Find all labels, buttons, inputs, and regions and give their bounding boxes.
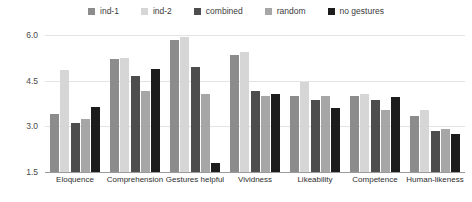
bar-group — [285, 35, 345, 172]
bar — [60, 70, 69, 172]
bar-group — [45, 35, 105, 172]
legend-swatch-icon — [265, 8, 272, 15]
bar — [391, 97, 400, 172]
bar — [441, 129, 450, 172]
legend-item: random — [265, 7, 306, 16]
x-axis-labels: EloquenceComprehensionGestures helpfulVi… — [45, 176, 465, 190]
y-axis-tick-label: 6.0 — [0, 31, 38, 40]
bar — [211, 163, 220, 172]
x-axis-label: Likeability — [285, 176, 345, 190]
bar — [261, 96, 270, 172]
bar — [290, 96, 299, 172]
bar-group — [165, 35, 225, 172]
bar — [131, 76, 140, 172]
y-axis-tick-label: 1.5 — [0, 168, 38, 177]
bar-chart: ind-1ind-2combinedrandomno gestures 1.53… — [0, 0, 472, 202]
bar — [230, 55, 239, 172]
bar-group — [345, 35, 405, 172]
x-axis-line — [45, 172, 465, 173]
bar — [410, 116, 419, 172]
legend-item: no gestures — [328, 7, 384, 16]
bar — [201, 94, 210, 172]
legend-swatch-icon — [194, 8, 201, 15]
legend-item: ind-1 — [88, 7, 119, 16]
bar — [331, 108, 340, 172]
bar — [300, 82, 309, 172]
legend-item: ind-2 — [141, 7, 172, 16]
bar — [180, 37, 189, 172]
bar-group — [405, 35, 465, 172]
bar-group — [105, 35, 165, 172]
bar — [420, 110, 429, 172]
bar — [91, 107, 100, 172]
bar-groups — [45, 35, 465, 172]
legend-label: ind-1 — [100, 7, 119, 16]
bar — [50, 114, 59, 172]
legend-label: ind-2 — [153, 7, 172, 16]
bar — [71, 123, 80, 172]
bar — [251, 91, 260, 172]
legend-swatch-icon — [88, 8, 95, 15]
bar — [170, 40, 179, 172]
legend-item: combined — [194, 7, 243, 16]
legend-label: no gestures — [340, 7, 384, 16]
bar — [120, 58, 129, 172]
bar-group — [225, 35, 285, 172]
legend-swatch-icon — [141, 8, 148, 15]
chart-legend: ind-1ind-2combinedrandomno gestures — [0, 4, 472, 18]
x-axis-label: Vividness — [225, 176, 285, 190]
y-axis-tick-label: 3.0 — [0, 122, 38, 131]
bar — [381, 110, 390, 172]
x-axis-label: Competence — [345, 176, 405, 190]
bar — [191, 67, 200, 172]
bar — [350, 96, 359, 172]
bar — [81, 119, 90, 172]
bar — [360, 94, 369, 172]
x-axis-label: Human-likeness — [405, 176, 465, 190]
bar — [151, 69, 160, 173]
bar — [110, 59, 119, 172]
y-axis-tick-label: 4.5 — [0, 77, 38, 86]
bar — [371, 100, 380, 172]
legend-label: random — [277, 7, 306, 16]
bar — [240, 52, 249, 172]
x-axis-label: Eloquence — [45, 176, 105, 190]
x-axis-label: Gestures helpful — [165, 176, 225, 190]
legend-swatch-icon — [328, 8, 335, 15]
bar — [321, 96, 330, 172]
x-axis-label: Comprehension — [105, 176, 165, 190]
bar — [141, 91, 150, 172]
bar — [451, 134, 460, 172]
bar — [271, 94, 280, 172]
legend-label: combined — [206, 7, 243, 16]
bar — [431, 131, 440, 172]
bar — [311, 100, 320, 172]
